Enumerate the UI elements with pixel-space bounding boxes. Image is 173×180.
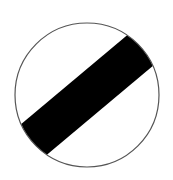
national-speed-limit-sign [0, 0, 173, 180]
